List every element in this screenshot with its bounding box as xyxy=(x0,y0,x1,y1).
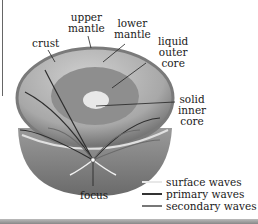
wave-legend: surface waves primary waves secondary wa… xyxy=(142,176,257,212)
inner-core xyxy=(83,91,109,109)
secondary-wave-swatch-icon xyxy=(142,205,162,207)
label-focus: focus xyxy=(80,190,108,201)
legend-item-secondary-waves: secondary waves xyxy=(142,200,257,212)
page-bottom-edge xyxy=(0,219,258,224)
legend-item-primary-waves: primary waves xyxy=(142,188,257,200)
label-liquid-outer-core: liquid outer core xyxy=(158,36,188,69)
label-upper-mantle: upper mantle xyxy=(68,12,105,34)
legend-label: surface waves xyxy=(166,176,242,188)
focus-point-icon xyxy=(91,158,95,162)
surface-wave-swatch-icon xyxy=(142,181,162,183)
legend-label: primary waves xyxy=(166,188,244,200)
label-crust: crust xyxy=(32,38,59,49)
legend-label: secondary waves xyxy=(166,200,257,212)
label-solid-inner-core: solid inner core xyxy=(178,94,206,127)
legend-item-surface-waves: surface waves xyxy=(142,176,257,188)
primary-wave-swatch-icon xyxy=(142,193,162,195)
label-lower-mantle: lower mantle xyxy=(114,18,151,40)
